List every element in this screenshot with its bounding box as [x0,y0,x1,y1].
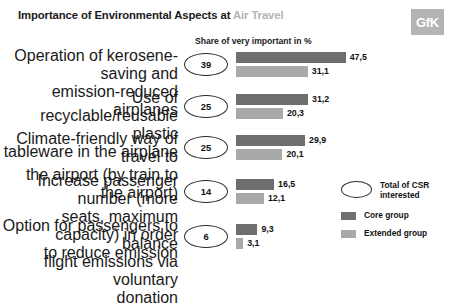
bar-value-label: 31,1 [312,66,329,77]
bar-core-group [236,224,257,235]
page-title-main: Importance of Environmental Aspects at [18,9,233,21]
bar-extended-group [236,149,282,160]
total-csr-bubble: 25 [184,136,228,159]
bar-value-label: 20,3 [287,108,304,119]
total-csr-bubble: 25 [184,95,228,118]
bar-extended-group [236,238,243,249]
legend-item-extended: Extended group [341,228,427,238]
row-label-line: donation [2,289,178,307]
row-label-line: Operation of kerosene-saving and [2,47,178,83]
page-title: Importance of Environmental Aspects at A… [18,9,283,21]
page-title-subject: Air Travel [233,9,284,21]
bar-value-label: 20,1 [286,149,303,160]
legend-item-total: Total of CSR interested [341,180,429,200]
legend-label-total-line2: interested [380,190,429,200]
row-label-line: flight emissions via voluntary [2,253,178,289]
row-label-line: Climate-friendly way of travel to [2,130,178,166]
row-label-line: Option for passengers to balance [2,217,178,253]
total-csr-bubble: 14 [184,180,228,203]
legend-label-total: Total of CSR interested [380,180,429,200]
bar-value-label: 16,5 [278,179,295,190]
swatch-core-icon [341,212,356,220]
bar-value-label: 9,3 [261,224,273,235]
bar-value-label: 31,2 [312,94,329,105]
bar-value-label: 3,1 [247,238,259,249]
swatch-extended-icon [341,230,356,238]
legend-label-core: Core group [364,210,409,220]
bar-core-group [236,179,274,190]
row-label-line: Increase passenger number (more [2,172,178,208]
axis-caption: Share of very important in % [195,36,312,46]
bar-core-group [236,135,305,146]
total-csr-bubble: 39 [184,53,228,76]
bar-extended-group [236,66,308,77]
total-csr-bubble: 6 [184,225,228,248]
bar-extended-group [236,193,264,204]
bar-core-group [236,52,346,63]
legend-item-core: Core group [341,210,409,220]
ellipse-icon [341,181,372,198]
row-label: Option for passengers to balanceflight e… [2,217,178,307]
bar-value-label: 12,1 [268,193,285,204]
bar-extended-group [236,108,283,119]
legend-label-extended: Extended group [364,228,427,238]
gfk-logo: GfK [411,9,444,35]
bar-value-label: 29,9 [309,135,326,146]
legend-label-total-line1: Total of CSR [380,180,429,190]
bar-core-group [236,94,308,105]
bar-value-label: 47,5 [350,52,367,63]
